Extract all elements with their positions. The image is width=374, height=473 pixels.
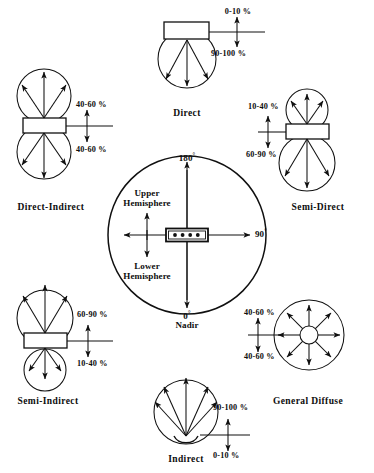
- polar-nadir-label: Nadir: [176, 321, 199, 330]
- direct-name-label: Direct: [173, 109, 201, 119]
- direct-down-percent: 90-100 %: [211, 50, 246, 59]
- direct-indirect-graphic: [17, 69, 113, 179]
- direct-up-percent: 0-10 %: [225, 8, 251, 17]
- general-diffuse-up-percent: 40-60 %: [244, 309, 275, 318]
- indirect-down-percent: 0-10 %: [213, 452, 239, 461]
- semi-direct-name-label: Semi-Direct: [292, 203, 345, 213]
- direct-indirect-up-percent: 40-60 %: [76, 101, 107, 110]
- semi-indirect-name-label: Semi-Indirect: [18, 397, 79, 407]
- semi-indirect-up-percent: 60-90 %: [77, 311, 108, 320]
- upper-hemisphere-label: UpperHemisphere: [123, 188, 170, 208]
- lower-hemisphere-label: LowerHemisphere: [123, 261, 170, 281]
- general-diffuse-down-percent: 40-60 %: [244, 353, 275, 362]
- direct-indirect-name-label: Direct-Indirect: [18, 203, 85, 213]
- semi-indirect-down-percent: 10-40 %: [77, 360, 108, 369]
- semi-direct-up-percent: 10-40 %: [248, 103, 279, 112]
- polar-reference-graphic: [108, 156, 266, 314]
- general-diffuse-name-label: General Diffuse: [273, 397, 343, 407]
- figure-canvas: 180° 0° Nadir 90° UpperHemisphere LowerH…: [0, 0, 374, 473]
- polar-top-angle-label: 180°: [179, 152, 196, 163]
- semi-indirect-graphic: [17, 285, 113, 391]
- indirect-name-label: Indirect: [168, 455, 204, 465]
- polar-right-angle-label: 90°: [255, 228, 267, 239]
- direct-indirect-down-percent: 40-60 %: [76, 146, 107, 155]
- semi-direct-down-percent: 60-90 %: [246, 151, 277, 160]
- indirect-graphic: [154, 378, 250, 451]
- indirect-up-percent: 90-100 %: [213, 404, 248, 413]
